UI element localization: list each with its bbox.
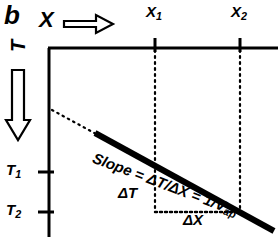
t2-tick-label-text: T (6, 201, 15, 218)
delta-t-label: ΔT (118, 185, 137, 200)
delta-x-label: ΔX (183, 212, 203, 227)
figure-panel-b: b X T X1 X2 T1 T2 ΔT ΔX Slope = ΔT/ΔX = … (0, 0, 278, 237)
x1-tick-label: X1 (146, 4, 162, 21)
x-axis-label: X (39, 9, 54, 31)
figure-graphics (0, 0, 278, 237)
x2-tick-label: X2 (231, 4, 247, 21)
t1-tick-label-text: T (6, 161, 15, 178)
x2-tick-label-subscript: 2 (241, 10, 247, 22)
slope-line-extension (52, 110, 98, 135)
t-axis-label: T (8, 40, 28, 52)
t1-tick-label: T1 (6, 162, 21, 179)
t2-tick-label: T2 (6, 202, 21, 219)
t2-tick-label-subscript: 2 (15, 208, 21, 220)
x-axis-arrow-icon (64, 15, 113, 33)
x1-tick-label-subscript: 1 (156, 10, 162, 22)
t-axis-arrow-icon (6, 70, 30, 140)
t1-tick-label-subscript: 1 (15, 168, 21, 180)
x1-tick-label-text: X (146, 3, 156, 20)
panel-letter: b (4, 2, 20, 28)
x2-tick-label-text: X (231, 3, 241, 20)
